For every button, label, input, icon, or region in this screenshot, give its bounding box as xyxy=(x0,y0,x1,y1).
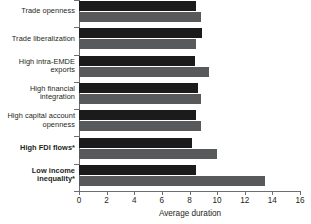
x-axis-tick xyxy=(300,191,301,195)
x-axis-tick-label: 14 xyxy=(260,196,284,206)
x-axis-tick xyxy=(190,191,191,195)
bar xyxy=(79,28,202,38)
bar xyxy=(79,149,217,159)
y-axis-label: Trade liberalization xyxy=(0,35,75,44)
bar xyxy=(79,176,265,186)
y-axis-tick xyxy=(74,0,79,1)
x-axis-tick xyxy=(272,191,273,195)
x-axis-tick-label: 0 xyxy=(67,196,91,206)
y-axis-tick xyxy=(74,164,79,165)
x-axis-title: Average duration xyxy=(79,209,301,219)
plot-area xyxy=(79,0,300,191)
y-axis-tick xyxy=(74,109,79,110)
x-axis-tick-label: 4 xyxy=(122,196,146,206)
x-axis-tick xyxy=(79,191,80,195)
y-axis-label: High intra-EMDEexports xyxy=(0,58,75,75)
bar xyxy=(79,39,196,49)
x-axis-tick-label: 12 xyxy=(233,196,257,206)
y-axis-tick xyxy=(74,136,79,137)
x-axis-tick xyxy=(217,191,218,195)
y-axis-label: High capital accountopenness xyxy=(0,112,75,129)
y-axis-label-line: Trade openness xyxy=(0,7,75,16)
y-axis-label: Trade openness xyxy=(0,7,75,16)
x-axis-tick-label: 16 xyxy=(288,196,311,206)
bar xyxy=(79,138,192,148)
y-axis-label: Low incomeinequality* xyxy=(0,167,75,184)
bar xyxy=(79,56,195,66)
x-axis-tick xyxy=(245,191,246,195)
x-axis-tick-label: 6 xyxy=(150,196,174,206)
bar xyxy=(79,165,196,175)
bar-chart: Trade opennessTrade liberalizationHigh i… xyxy=(0,0,311,224)
x-axis-tick-label: 2 xyxy=(95,196,119,206)
x-axis-tick xyxy=(162,191,163,195)
x-axis-tick-label: 8 xyxy=(178,196,202,206)
bar xyxy=(79,83,198,93)
x-axis-tick xyxy=(107,191,108,195)
y-axis-tick xyxy=(74,55,79,56)
y-axis-tick xyxy=(74,27,79,28)
y-axis-label: High financialintegration xyxy=(0,85,75,102)
y-axis-label: High FDI flows* xyxy=(0,144,75,153)
bar xyxy=(79,121,201,131)
x-axis-tick xyxy=(134,191,135,195)
bar xyxy=(79,94,201,104)
bar xyxy=(79,1,196,11)
y-axis-label-line: inequality* xyxy=(0,175,75,184)
y-axis-label-line: integration xyxy=(0,93,75,102)
y-axis-label-line: Trade liberalization xyxy=(0,35,75,44)
y-axis-tick xyxy=(74,82,79,83)
bar xyxy=(79,12,201,22)
bar xyxy=(79,67,209,77)
y-axis-label-line: openness xyxy=(0,121,75,130)
x-axis-tick-label: 10 xyxy=(205,196,229,206)
y-axis-label-line: exports xyxy=(0,66,75,75)
y-axis-label-line: High FDI flows* xyxy=(0,144,75,153)
bar xyxy=(79,110,196,120)
